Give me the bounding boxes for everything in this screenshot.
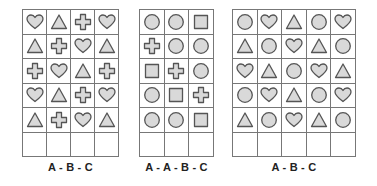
grid-cell: [282, 59, 307, 84]
grid-1-caption: A - B - C: [22, 161, 119, 173]
cross-icon: [74, 13, 92, 31]
circle-icon: [285, 62, 303, 80]
grid-cell: [257, 10, 282, 35]
empty-answer-cell[interactable]: [23, 132, 47, 157]
grid-cell: [71, 59, 95, 84]
heart-icon: [285, 111, 303, 129]
heart-icon: [98, 86, 116, 104]
empty-answer-cell[interactable]: [164, 132, 189, 157]
circle-icon: [143, 13, 161, 31]
grid-row: [23, 10, 119, 35]
heart-icon: [26, 13, 44, 31]
triangle-icon: [334, 62, 352, 80]
grid-cell: [47, 83, 71, 108]
empty-answer-cell[interactable]: [282, 132, 307, 157]
circle-icon: [143, 86, 161, 104]
grid-cell: [306, 10, 331, 35]
grid-row: [233, 10, 356, 35]
grid-cell: [331, 34, 356, 59]
grid-cell: [164, 10, 189, 35]
heart-icon: [236, 62, 254, 80]
grid-3-caption: A - B - C: [232, 161, 356, 173]
grid-row: [23, 59, 119, 84]
grid-cell: [331, 83, 356, 108]
grid-cell: [71, 34, 95, 59]
grid-cell: [257, 108, 282, 133]
grid-cell: [23, 34, 47, 59]
pattern-grid-2: [139, 9, 214, 157]
empty-answer-cell[interactable]: [233, 132, 258, 157]
grid-cell: [164, 83, 189, 108]
grid-cell: [95, 108, 119, 133]
circle-icon: [260, 37, 278, 55]
heart-icon: [50, 62, 68, 80]
triangle-icon: [236, 37, 254, 55]
circle-icon: [236, 86, 254, 104]
grid-cell: [71, 83, 95, 108]
grid-cell: [164, 59, 189, 84]
grid-cell: [140, 10, 165, 35]
empty-answer-cell[interactable]: [47, 132, 71, 157]
square-icon: [192, 111, 210, 129]
grid-cell: [47, 10, 71, 35]
grid-cell: [95, 83, 119, 108]
grid-cell: [71, 10, 95, 35]
grid-row: [233, 108, 356, 133]
empty-answer-cell[interactable]: [71, 132, 95, 157]
grid-2-caption: A - A - B - C: [139, 161, 214, 173]
heart-icon: [334, 86, 352, 104]
grid-cell: [306, 59, 331, 84]
grid-row: [140, 132, 214, 157]
grid-cell: [282, 10, 307, 35]
triangle-icon: [50, 13, 68, 31]
grid-cell: [140, 59, 165, 84]
circle-icon: [334, 111, 352, 129]
triangle-icon: [26, 37, 44, 55]
grid-row: [233, 59, 356, 84]
circle-icon: [192, 62, 210, 80]
grid-cell: [306, 108, 331, 133]
triangle-icon: [285, 13, 303, 31]
grid-cell: [233, 34, 258, 59]
circle-icon: [167, 37, 185, 55]
heart-icon: [98, 13, 116, 31]
triangle-icon: [98, 37, 116, 55]
grid-cell: [257, 59, 282, 84]
grid-row: [23, 83, 119, 108]
empty-answer-cell[interactable]: [95, 132, 119, 157]
triangle-icon: [260, 62, 278, 80]
circle-icon: [334, 37, 352, 55]
grid-cell: [71, 108, 95, 133]
triangle-icon: [236, 111, 254, 129]
grid-row: [233, 34, 356, 59]
grid-cell: [282, 83, 307, 108]
grid-cell: [282, 34, 307, 59]
grid-cell: [23, 59, 47, 84]
grid-row: [140, 34, 214, 59]
cross-icon: [98, 62, 116, 80]
grid-cell: [95, 34, 119, 59]
grid-cell: [233, 59, 258, 84]
grid-cell: [233, 10, 258, 35]
circle-icon: [167, 13, 185, 31]
grid-row: [23, 34, 119, 59]
empty-answer-cell[interactable]: [306, 132, 331, 157]
grid-cell: [331, 10, 356, 35]
empty-answer-cell[interactable]: [257, 132, 282, 157]
grid-row: [23, 132, 119, 157]
circle-icon: [167, 111, 185, 129]
empty-answer-cell[interactable]: [189, 132, 214, 157]
heart-icon: [74, 111, 92, 129]
heart-icon: [310, 62, 328, 80]
empty-answer-cell[interactable]: [140, 132, 165, 157]
heart-icon: [26, 86, 44, 104]
square-icon: [192, 13, 210, 31]
grid-cell: [47, 59, 71, 84]
heart-icon: [74, 37, 92, 55]
circle-icon: [310, 13, 328, 31]
grid-cell: [257, 83, 282, 108]
cross-icon: [192, 86, 210, 104]
grid-cell: [233, 108, 258, 133]
empty-answer-cell[interactable]: [331, 132, 356, 157]
circle-icon: [192, 37, 210, 55]
